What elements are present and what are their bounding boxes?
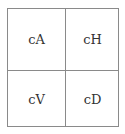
subband-grid: cA cH cV cD (7, 8, 119, 127)
cell-label: cH (83, 32, 102, 47)
cell-label: cD (84, 92, 102, 107)
cell-horizontal-detail: cH (66, 9, 119, 70)
cell-approximation: cA (8, 9, 65, 70)
cell-label: cA (28, 32, 45, 47)
cell-diagonal-detail: cD (66, 71, 119, 127)
cell-label: cV (28, 92, 45, 107)
cell-vertical-detail: cV (8, 71, 65, 127)
